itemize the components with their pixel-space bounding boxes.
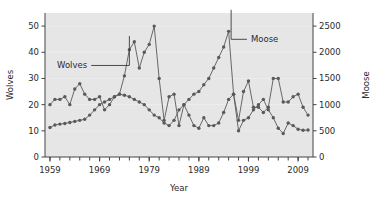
data-point	[197, 90, 200, 93]
data-point	[73, 120, 76, 123]
data-point	[177, 108, 180, 111]
data-point	[103, 108, 106, 111]
data-point	[232, 92, 235, 95]
data-point	[262, 98, 265, 101]
data-point	[123, 94, 126, 97]
data-point	[212, 124, 215, 127]
data-point	[138, 100, 141, 103]
data-point	[157, 77, 160, 80]
data-point	[217, 121, 220, 124]
data-point	[237, 129, 240, 132]
data-point	[202, 83, 205, 86]
data-point	[212, 66, 215, 69]
data-point	[148, 43, 151, 46]
data-point	[63, 95, 66, 98]
data-point	[118, 92, 121, 95]
data-point	[68, 103, 71, 106]
data-point	[192, 92, 195, 95]
data-point	[167, 95, 170, 98]
y-tick-label: 0	[34, 152, 39, 162]
data-point	[53, 123, 56, 126]
chart-figure: 0102030405005001000150020002500195919691…	[0, 0, 384, 206]
y2-tick-label: 0	[319, 152, 324, 162]
annotation-label: Wolves	[57, 60, 88, 70]
data-point	[152, 24, 155, 27]
data-point	[247, 116, 250, 119]
data-point	[113, 95, 116, 98]
x-tick-label: 2009	[287, 165, 309, 175]
data-point	[197, 127, 200, 130]
data-point	[296, 92, 299, 95]
x-tick-label: 1969	[89, 165, 111, 175]
y2-tick-label: 500	[319, 126, 335, 136]
data-point	[123, 74, 126, 77]
chart-svg: 0102030405005001000150020002500195919691…	[0, 0, 384, 206]
data-point	[138, 66, 141, 69]
data-point	[98, 95, 101, 98]
data-point	[187, 98, 190, 101]
data-point	[128, 95, 131, 98]
data-point	[247, 79, 250, 82]
data-point	[167, 124, 170, 127]
data-point	[78, 119, 81, 122]
data-point	[182, 103, 185, 106]
data-point	[301, 106, 304, 109]
data-point	[143, 103, 146, 106]
data-point	[222, 45, 225, 48]
data-point	[108, 103, 111, 106]
data-point	[272, 77, 275, 80]
data-point	[88, 113, 91, 116]
data-point	[242, 90, 245, 93]
data-point	[291, 124, 294, 127]
data-point	[133, 40, 136, 43]
data-point	[103, 100, 106, 103]
data-point	[282, 100, 285, 103]
data-point	[83, 118, 86, 121]
x-tick-label: 1999	[238, 165, 260, 175]
data-point	[262, 111, 265, 114]
x-tick-label: 1989	[188, 165, 210, 175]
data-point	[291, 95, 294, 98]
data-point	[48, 103, 51, 106]
data-point	[98, 103, 101, 106]
data-point	[58, 98, 61, 101]
annotation-label: Moose	[251, 34, 278, 44]
data-point	[63, 122, 66, 125]
data-point	[162, 121, 165, 124]
data-point	[282, 132, 285, 135]
data-point	[88, 98, 91, 101]
data-point	[177, 124, 180, 127]
data-point	[58, 122, 61, 125]
y-tick-label: 10	[28, 126, 39, 136]
data-point	[187, 113, 190, 116]
data-point	[73, 87, 76, 90]
data-point	[306, 128, 309, 131]
y-tick-label: 40	[28, 47, 39, 57]
y2-tick-label: 2500	[319, 21, 341, 31]
data-point	[152, 113, 155, 116]
data-point	[48, 126, 51, 129]
data-point	[227, 98, 230, 101]
data-point	[133, 98, 136, 101]
y2-tick-label: 1500	[319, 73, 341, 83]
data-point	[53, 98, 56, 101]
data-point	[272, 116, 275, 119]
data-point	[301, 129, 304, 132]
y-axis-label-moose: Moose	[361, 71, 371, 98]
y-tick-label: 30	[28, 73, 39, 83]
x-tick-label: 1959	[39, 165, 61, 175]
data-point	[78, 82, 81, 85]
data-point	[202, 116, 205, 119]
data-point	[222, 111, 225, 114]
data-point	[277, 77, 280, 80]
x-axis-label: Year	[169, 183, 189, 193]
data-point	[267, 108, 270, 111]
data-point	[68, 121, 71, 124]
data-point	[93, 108, 96, 111]
y-tick-label: 50	[28, 21, 39, 31]
y2-tick-label: 2000	[319, 47, 341, 57]
y-tick-label: 20	[28, 100, 39, 110]
data-point	[148, 108, 151, 111]
data-point	[207, 77, 210, 80]
data-point	[217, 56, 220, 59]
